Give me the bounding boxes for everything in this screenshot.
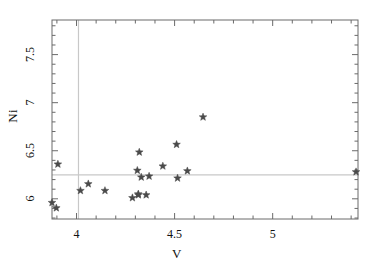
x-tick-label: 5 bbox=[261, 227, 285, 242]
data-point bbox=[54, 160, 62, 167]
y-tick-label: 6.5 bbox=[23, 136, 38, 164]
y-tick-label: 6 bbox=[23, 184, 38, 212]
data-point bbox=[134, 166, 142, 173]
data-point bbox=[159, 162, 167, 169]
data-point bbox=[101, 187, 109, 194]
data-point bbox=[77, 187, 85, 194]
data-point bbox=[84, 180, 92, 187]
x-axis-label: V bbox=[172, 246, 182, 262]
scatter-plot-figure: Ni V 44.55 66.577.5 bbox=[0, 0, 370, 274]
data-point bbox=[199, 113, 207, 120]
y-axis-label: Ni bbox=[5, 109, 21, 122]
data-point bbox=[135, 148, 143, 155]
data-point bbox=[184, 167, 192, 174]
data-point bbox=[352, 168, 360, 175]
y-tick-label: 7.5 bbox=[23, 40, 38, 68]
data-point-series bbox=[48, 113, 360, 211]
x-tick-label: 4.5 bbox=[163, 227, 187, 242]
y-tick-label: 7 bbox=[23, 88, 38, 116]
data-point bbox=[129, 194, 137, 201]
x-tick-label: 4 bbox=[65, 227, 89, 242]
data-point bbox=[145, 172, 153, 179]
data-point bbox=[173, 141, 181, 148]
data-point bbox=[142, 191, 150, 198]
